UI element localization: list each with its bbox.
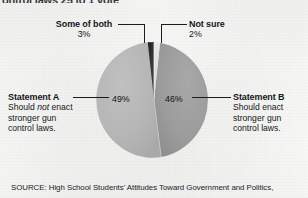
callout-statement-a-title: Statement A	[8, 92, 73, 102]
callout-statement-b-line1: Should enact	[233, 102, 284, 112]
callout-some-of-both: Some of both 3%	[52, 19, 116, 40]
callout-some-of-both-pct: 3%	[52, 29, 116, 39]
leader-line-statement-b	[192, 97, 231, 98]
callout-statement-b-line3: control laws.	[233, 123, 284, 133]
clipped-headline-remnant: ontrol laws 25 to 1 vote	[2, 0, 128, 3]
callout-statement-a-line2: stronger gun	[8, 113, 73, 123]
leader-line-not-sure-horizontal	[161, 24, 187, 25]
callout-statement-b: Statement B Should enact stronger gun co…	[233, 92, 284, 134]
leader-line-not-sure-vertical	[161, 24, 162, 43]
callout-some-of-both-title: Some of both	[52, 19, 116, 29]
leader-line-statement-a	[73, 97, 109, 98]
callout-not-sure: Not sure 2%	[189, 19, 253, 40]
callout-not-sure-pct: 2%	[189, 29, 253, 39]
pie-value-statement-b: 46%	[165, 94, 183, 104]
callout-statement-b-line2: stronger gun	[233, 113, 284, 123]
callout-not-sure-title: Not sure	[189, 19, 253, 29]
pie-value-statement-a: 49%	[112, 94, 130, 104]
callout-statement-a-line1: Should not enact	[8, 102, 73, 112]
source-note: SOURCE: High School Students' Attitudes …	[11, 183, 273, 193]
callout-statement-a: Statement A Should not enact stronger gu…	[8, 92, 73, 134]
leader-line-some-of-both-vertical	[144, 24, 145, 43]
callout-statement-b-title: Statement B	[233, 92, 284, 102]
leader-line-some-of-both-horizontal	[118, 24, 145, 25]
page-background: ontrol laws 25 to 1 vote	[0, 0, 308, 198]
callout-statement-a-emphasis: not	[37, 102, 49, 112]
callout-statement-a-line3: control laws.	[8, 123, 73, 133]
